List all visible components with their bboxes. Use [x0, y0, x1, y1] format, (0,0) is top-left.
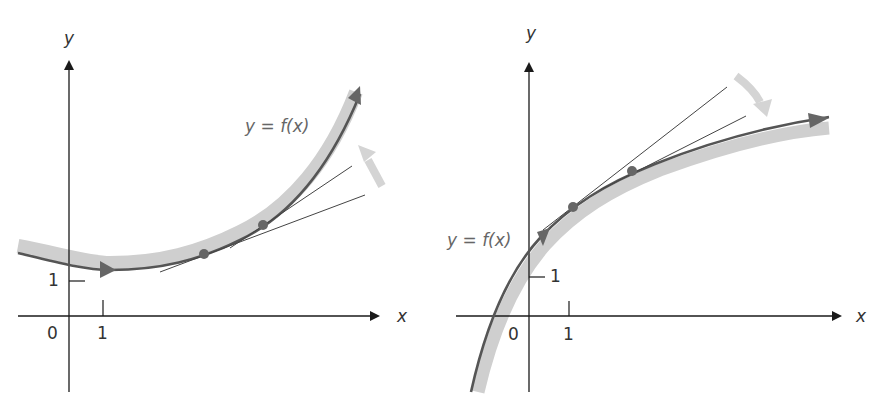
right-y-axis-label: y — [526, 25, 536, 42]
right-point-2 — [627, 166, 637, 176]
left-function-label: y = f(x) — [245, 118, 309, 135]
left-func-lhs: y — [245, 116, 255, 136]
right-func-rhs: f(x) — [482, 230, 511, 250]
figure-canvas — [0, 0, 887, 415]
left-point-1 — [199, 249, 209, 259]
left-func-eq: = — [255, 116, 280, 136]
right-point-1 — [568, 202, 578, 212]
left-graph — [18, 62, 382, 392]
left-point-2 — [258, 220, 268, 230]
right-func-lhs: y — [447, 230, 457, 250]
left-y-axis-label: y — [64, 30, 74, 47]
left-y-tick-label: 1 — [48, 272, 59, 289]
right-rotation-arrow-icon — [736, 76, 772, 117]
left-tangent-line-1 — [160, 195, 365, 272]
right-origin-label: 0 — [508, 326, 519, 343]
right-curve-band — [478, 128, 829, 392]
left-x-axis-label: x — [397, 308, 407, 325]
left-x-tick-label: 1 — [97, 325, 108, 342]
right-x-axis-label: x — [856, 308, 866, 325]
right-y-tick-label: 1 — [550, 268, 561, 285]
right-function-label: y = f(x) — [447, 232, 511, 249]
left-rotation-arrow-icon — [358, 145, 382, 186]
right-func-eq: = — [457, 230, 482, 250]
left-func-rhs: f(x) — [280, 116, 309, 136]
right-curve — [471, 117, 829, 392]
right-x-tick-label: 1 — [563, 326, 574, 343]
left-origin-label: 0 — [47, 325, 58, 342]
